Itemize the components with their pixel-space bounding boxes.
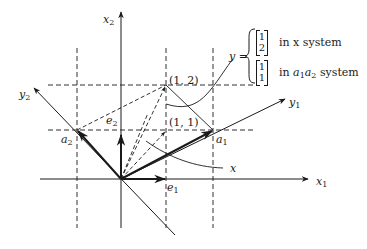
x-system-text: in x system	[279, 37, 342, 48]
matrix-bracket-right	[264, 60, 268, 86]
a-system-text: in a1a2 system	[279, 67, 359, 80]
matrix-bracket-right	[264, 30, 268, 56]
diagram-canvas: x2 x1 y1 y2 e2 e1 a1 a2 x (1, 2) (1, 1) …	[0, 0, 367, 249]
